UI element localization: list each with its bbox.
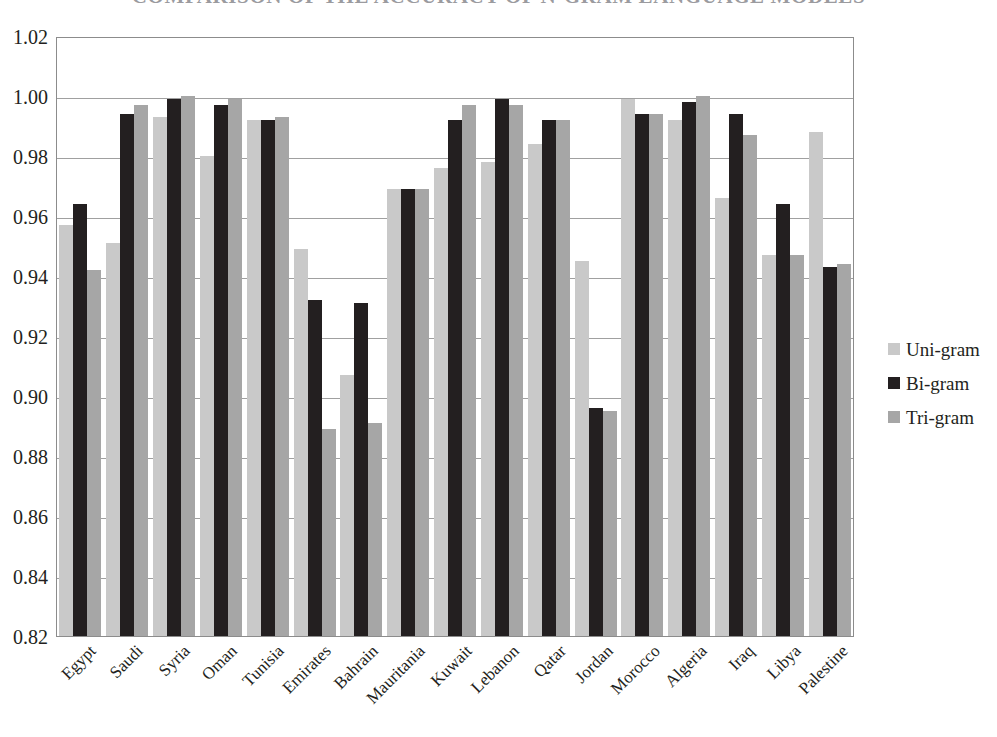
bar-uni-gram[interactable] bbox=[575, 261, 589, 636]
bar-bi-gram[interactable] bbox=[448, 120, 462, 636]
bar-tri-gram[interactable] bbox=[462, 105, 476, 636]
y-axis-tick-label: 0.94 bbox=[13, 267, 48, 287]
x-axis-tick-label: Palestine bbox=[795, 642, 850, 697]
bar-bi-gram[interactable] bbox=[167, 99, 181, 636]
bar-bi-gram[interactable] bbox=[823, 267, 837, 636]
bar-uni-gram[interactable] bbox=[340, 375, 354, 636]
bar-group bbox=[572, 38, 619, 636]
bar-tri-gram[interactable] bbox=[649, 114, 663, 636]
bar-tri-gram[interactable] bbox=[322, 429, 336, 636]
bar-uni-gram[interactable] bbox=[434, 168, 448, 636]
bar-uni-gram[interactable] bbox=[153, 117, 167, 636]
bar-group bbox=[385, 38, 432, 636]
y-axis-tick-label: 0.84 bbox=[13, 567, 48, 587]
bar-bi-gram[interactable] bbox=[776, 204, 790, 636]
bar-bi-gram[interactable] bbox=[635, 114, 649, 636]
bar-uni-gram[interactable] bbox=[106, 243, 120, 636]
bar-tri-gram[interactable] bbox=[415, 189, 429, 636]
bar-tri-gram[interactable] bbox=[368, 423, 382, 636]
legend-item[interactable]: Bi-gram bbox=[888, 366, 997, 400]
x-axis-tick-label: Iraq bbox=[725, 642, 756, 673]
y-axis-tick-label: 0.92 bbox=[13, 327, 48, 347]
bar-bi-gram[interactable] bbox=[120, 114, 134, 636]
bar-groups bbox=[57, 38, 853, 636]
bar-tri-gram[interactable] bbox=[790, 255, 804, 636]
bar-uni-gram[interactable] bbox=[481, 162, 495, 636]
legend-item[interactable]: Tri-gram bbox=[888, 400, 997, 434]
bar-tri-gram[interactable] bbox=[181, 96, 195, 636]
bar-bi-gram[interactable] bbox=[73, 204, 87, 636]
y-axis: 1.021.000.980.960.940.920.900.880.860.84… bbox=[0, 0, 56, 677]
chart-title: COMPARISON OF THE ACCURACY OF N-GRAM LAN… bbox=[132, 0, 865, 9]
bar-bi-gram[interactable] bbox=[214, 105, 228, 636]
chart-title-strip: COMPARISON OF THE ACCURACY OF N-GRAM LAN… bbox=[0, 0, 997, 10]
y-axis-tick-label: 0.82 bbox=[13, 627, 48, 647]
bar-tri-gram[interactable] bbox=[743, 135, 757, 636]
x-axis-tick-label: Saudi bbox=[107, 642, 146, 681]
bar-bi-gram[interactable] bbox=[401, 189, 415, 636]
bar-bi-gram[interactable] bbox=[354, 303, 368, 636]
bar-group bbox=[151, 38, 198, 636]
x-axis-tick-label: Morocco bbox=[607, 642, 662, 697]
x-axis-tick-label: Egypt bbox=[59, 642, 100, 683]
y-axis-tick-label: 0.98 bbox=[13, 147, 48, 167]
bar-group bbox=[104, 38, 151, 636]
x-axis-tick-label: Jordan bbox=[572, 642, 616, 686]
bar-tri-gram[interactable] bbox=[837, 264, 851, 636]
y-axis-tick-label: 0.88 bbox=[13, 447, 48, 467]
bar-uni-gram[interactable] bbox=[247, 120, 261, 636]
legend-label: Bi-gram bbox=[906, 374, 969, 393]
bar-group bbox=[713, 38, 760, 636]
x-axis-tick-label: Algeria bbox=[662, 642, 710, 690]
bar-bi-gram[interactable] bbox=[542, 120, 556, 636]
bar-tri-gram[interactable] bbox=[228, 99, 242, 636]
x-axis-tick-label: Syria bbox=[156, 642, 193, 679]
legend-label: Uni-gram bbox=[906, 340, 980, 359]
y-axis-tick-label: 1.00 bbox=[13, 87, 48, 107]
bar-group bbox=[666, 38, 713, 636]
bar-bi-gram[interactable] bbox=[261, 120, 275, 636]
bar-tri-gram[interactable] bbox=[696, 96, 710, 636]
legend-swatch bbox=[888, 377, 900, 389]
bar-uni-gram[interactable] bbox=[715, 198, 729, 636]
bar-uni-gram[interactable] bbox=[59, 225, 73, 636]
y-axis-tick-label: 0.90 bbox=[13, 387, 48, 407]
bar-group bbox=[197, 38, 244, 636]
bar-uni-gram[interactable] bbox=[762, 255, 776, 636]
bar-uni-gram[interactable] bbox=[294, 249, 308, 636]
bar-tri-gram[interactable] bbox=[509, 105, 523, 636]
bar-uni-gram[interactable] bbox=[621, 99, 635, 636]
bar-group bbox=[432, 38, 479, 636]
bar-tri-gram[interactable] bbox=[275, 117, 289, 636]
bar-group bbox=[806, 38, 853, 636]
bar-tri-gram[interactable] bbox=[603, 411, 617, 636]
x-axis-tick-label: Lebanon bbox=[468, 642, 522, 696]
y-axis-tick-label: 0.86 bbox=[13, 507, 48, 527]
bar-tri-gram[interactable] bbox=[134, 105, 148, 636]
bar-uni-gram[interactable] bbox=[200, 156, 214, 636]
bar-group bbox=[619, 38, 666, 636]
bar-group bbox=[338, 38, 385, 636]
bar-tri-gram[interactable] bbox=[87, 270, 101, 636]
bar-bi-gram[interactable] bbox=[729, 114, 743, 636]
bar-uni-gram[interactable] bbox=[809, 132, 823, 636]
x-axis: EgyptSaudiSyriaOmanTunisiaEmiratesBahrai… bbox=[56, 638, 854, 737]
bar-group bbox=[57, 38, 104, 636]
y-axis-tick-label: 1.02 bbox=[13, 27, 48, 47]
bar-bi-gram[interactable] bbox=[589, 408, 603, 636]
bar-group bbox=[244, 38, 291, 636]
bar-bi-gram[interactable] bbox=[682, 102, 696, 636]
bar-uni-gram[interactable] bbox=[528, 144, 542, 636]
y-axis-tick-label: 0.96 bbox=[13, 207, 48, 227]
plot-area bbox=[56, 37, 854, 637]
legend-item[interactable]: Uni-gram bbox=[888, 332, 997, 366]
bar-uni-gram[interactable] bbox=[387, 189, 401, 636]
bar-bi-gram[interactable] bbox=[495, 99, 509, 636]
bar-tri-gram[interactable] bbox=[556, 120, 570, 636]
bar-bi-gram[interactable] bbox=[308, 300, 322, 636]
x-axis-tick-label: Libya bbox=[764, 642, 804, 682]
bar-group bbox=[478, 38, 525, 636]
x-axis-tick-label: Oman bbox=[199, 642, 240, 683]
legend-swatch bbox=[888, 411, 900, 423]
bar-uni-gram[interactable] bbox=[668, 120, 682, 636]
